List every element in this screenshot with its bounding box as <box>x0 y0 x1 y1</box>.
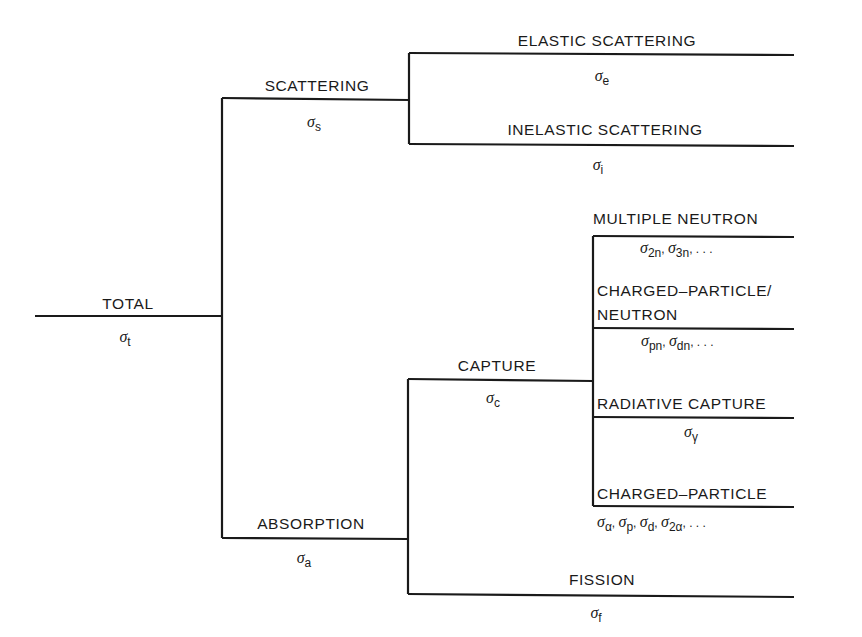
label-charged-particle-neutron-1: CHARGED–PARTICLE/ <box>597 282 772 299</box>
line-charged-particle-neutron <box>593 328 794 329</box>
symbol-total: σt <box>119 328 131 349</box>
label-capture: CAPTURE <box>458 357 536 374</box>
label-charged-particle-neutron-2: NEUTRON <box>597 306 678 323</box>
line-inelastic <box>409 144 794 146</box>
label-elastic-scattering: ELASTIC SCATTERING <box>518 32 696 49</box>
symbol-charged-particle-neutron: σpn, σdn, . . . <box>641 332 714 353</box>
symbol-radiative: σγ <box>684 423 698 444</box>
label-fission: FISSION <box>569 571 635 588</box>
symbol-capture: σc <box>486 389 500 410</box>
line-scattering <box>222 98 409 100</box>
line-capture <box>408 379 593 381</box>
cross-section-diagram: TOTAL SCATTERING ELASTIC SCATTERING INEL… <box>0 0 862 637</box>
line-fission <box>408 594 794 597</box>
line-multiple-neutron <box>593 236 794 237</box>
line-elastic <box>409 53 794 55</box>
symbol-elastic: σe <box>595 67 610 88</box>
label-charged-particle: CHARGED–PARTICLE <box>597 485 767 502</box>
label-absorption: ABSORPTION <box>257 515 365 532</box>
label-multiple-neutron: MULTIPLE NEUTRON <box>593 210 758 227</box>
label-total: TOTAL <box>102 295 154 312</box>
line-absorption <box>222 538 408 539</box>
diagram-canvas: TOTAL SCATTERING ELASTIC SCATTERING INEL… <box>0 0 862 637</box>
symbol-charged-particle: σα, σp, σd, σ2α, . . . <box>597 513 706 534</box>
symbol-absorption: σa <box>297 549 312 570</box>
label-scattering: SCATTERING <box>265 77 370 94</box>
symbol-multiple-neutron: σ2n, σ3n, . . . <box>640 239 713 260</box>
symbol-scattering: σs <box>307 113 321 134</box>
symbol-fission: σf <box>590 604 602 625</box>
line-radiative-capture <box>593 417 794 418</box>
symbol-inelastic: σi <box>593 156 604 177</box>
line-charged-particle <box>593 506 794 507</box>
label-inelastic-scattering: INELASTIC SCATTERING <box>507 121 702 138</box>
label-radiative-capture: RADIATIVE CAPTURE <box>597 395 766 412</box>
